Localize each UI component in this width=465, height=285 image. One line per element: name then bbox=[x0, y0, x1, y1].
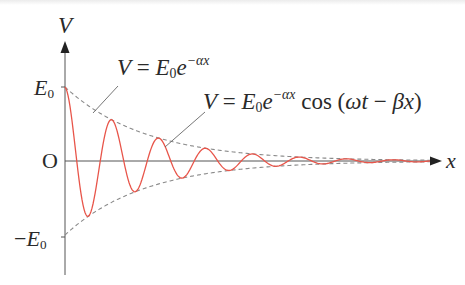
neg-e0-tick-label: −E0 bbox=[14, 228, 46, 252]
wave-formula-cos: cos ( bbox=[301, 89, 345, 114]
wave-formula-sub: 0 bbox=[256, 100, 263, 115]
plot-canvas bbox=[0, 0, 465, 285]
origin-label: O bbox=[42, 150, 58, 172]
wave-leader-line bbox=[165, 112, 205, 147]
neg-sign: − bbox=[14, 226, 26, 251]
y-axis-arrow-icon bbox=[61, 41, 70, 53]
wave-formula-exp-base: e bbox=[263, 89, 273, 114]
wave-formula-v: V bbox=[203, 89, 217, 114]
envelope-formula: V = E0e−αx bbox=[117, 56, 209, 81]
formula-v: V bbox=[117, 55, 131, 80]
neg-e0-letter: E bbox=[26, 226, 39, 251]
e0-sub: 0 bbox=[47, 86, 54, 101]
formula-e: E bbox=[156, 55, 170, 80]
wave-formula-close: ) bbox=[414, 89, 422, 114]
formula-exp-base: e bbox=[177, 55, 187, 80]
x-axis-label: x bbox=[446, 150, 456, 172]
wave-formula-exponent: −αx bbox=[273, 87, 296, 102]
y-axis-label: V bbox=[58, 14, 72, 37]
wave-formula-minus: − bbox=[368, 89, 392, 114]
formula-exponent: −αx bbox=[187, 53, 210, 68]
wave-formula-omega-t: ωt bbox=[345, 89, 368, 114]
lower-envelope-curve bbox=[65, 162, 430, 235]
x-axis-arrow-icon bbox=[430, 157, 442, 166]
wave-formula-eq: = bbox=[223, 89, 236, 114]
damped-wave-diagram: V x O E0 −E0 V = E0e−αx V = E0e−αx cos (… bbox=[0, 0, 465, 285]
neg-e0-sub: 0 bbox=[40, 237, 47, 252]
wave-formula-e: E bbox=[242, 89, 256, 114]
wave-formula: V = E0e−αx cos (ωt − βx) bbox=[203, 90, 422, 115]
wave-formula-beta-x: βx bbox=[392, 89, 414, 114]
e0-letter: E bbox=[34, 75, 47, 100]
e0-tick-label: E0 bbox=[34, 77, 54, 101]
formula-eq: = bbox=[137, 55, 150, 80]
envelope-leader-line bbox=[93, 86, 118, 113]
formula-sub: 0 bbox=[170, 66, 177, 81]
